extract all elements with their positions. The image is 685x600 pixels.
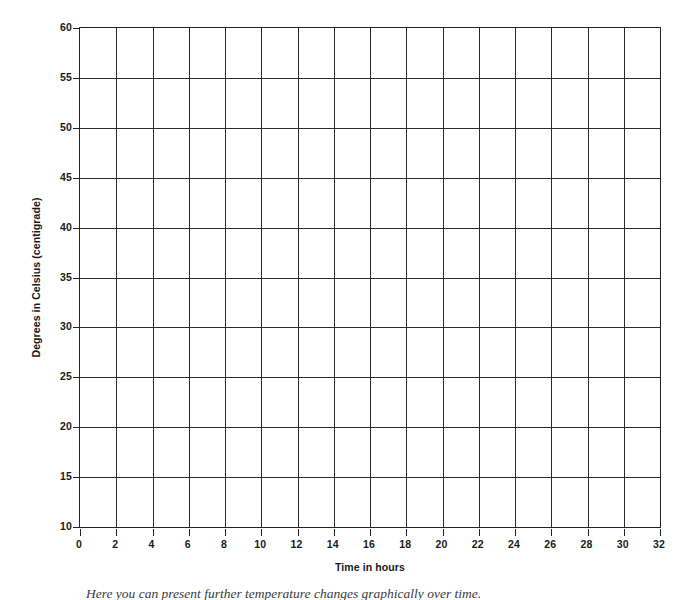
x-axis-tick-label: 6 xyxy=(173,538,203,550)
grid-line-vertical xyxy=(153,28,154,527)
y-axis-tick xyxy=(73,427,80,428)
x-axis-tick xyxy=(406,529,407,536)
y-axis-tick xyxy=(73,28,80,29)
x-axis-tick xyxy=(189,529,190,536)
grid-line-vertical xyxy=(225,28,226,527)
y-axis-title: Degrees in Celsius (centigrade) xyxy=(30,27,50,528)
x-axis-tick-label: 28 xyxy=(572,538,602,550)
y-axis-tick xyxy=(73,78,80,79)
y-axis-tick xyxy=(73,178,80,179)
grid-line-vertical xyxy=(370,28,371,527)
plot-area xyxy=(79,27,661,528)
grid-line-vertical xyxy=(624,28,625,527)
x-axis-tick-label: 8 xyxy=(209,538,239,550)
y-axis-tick xyxy=(73,327,80,328)
grid-line-vertical xyxy=(116,28,117,527)
figure-caption: Here you can present further temperature… xyxy=(86,586,646,600)
x-axis-tick-label: 26 xyxy=(535,538,565,550)
x-axis-tick xyxy=(261,529,262,536)
grid-line-vertical xyxy=(406,28,407,527)
x-axis-tick xyxy=(443,529,444,536)
x-axis-tick-label: 24 xyxy=(499,538,529,550)
x-axis-tick xyxy=(153,529,154,536)
grid-line-vertical xyxy=(189,28,190,527)
x-axis-tick-labels: 02468101214161820222426283032 xyxy=(79,538,661,554)
x-axis-tick xyxy=(588,529,589,536)
grid-line-vertical xyxy=(588,28,589,527)
x-axis-tick xyxy=(225,529,226,536)
grid-line-vertical xyxy=(479,28,480,527)
x-axis-tick-label: 0 xyxy=(64,538,94,550)
x-axis-tick-label: 10 xyxy=(245,538,275,550)
grid-line-vertical xyxy=(515,28,516,527)
x-axis-title: Time in hours xyxy=(79,561,661,573)
graph-figure: 1015202530354045505560 02468101214161820… xyxy=(0,0,685,600)
y-axis-tick xyxy=(73,527,80,528)
x-axis-tick xyxy=(624,529,625,536)
x-axis-tick xyxy=(80,529,81,536)
grid-line-vertical xyxy=(298,28,299,527)
y-axis-tick xyxy=(73,278,80,279)
x-axis-tick xyxy=(370,529,371,536)
x-axis-tick-label: 30 xyxy=(608,538,638,550)
x-axis-tick xyxy=(551,529,552,536)
x-axis-tick-label: 32 xyxy=(644,538,674,550)
x-axis-tick-label: 22 xyxy=(463,538,493,550)
x-axis-tick-label: 16 xyxy=(354,538,384,550)
x-axis-tick xyxy=(479,529,480,536)
x-axis-tick xyxy=(116,529,117,536)
x-axis-tick-label: 12 xyxy=(282,538,312,550)
x-axis-tick-label: 18 xyxy=(390,538,420,550)
y-axis-tick xyxy=(73,477,80,478)
x-axis-tick xyxy=(298,529,299,536)
x-axis-tick xyxy=(334,529,335,536)
x-axis-tick-label: 2 xyxy=(100,538,130,550)
x-axis-tick-label: 14 xyxy=(318,538,348,550)
y-axis-tick xyxy=(73,377,80,378)
grid-line-vertical xyxy=(261,28,262,527)
x-axis-tick-label: 20 xyxy=(427,538,457,550)
grid-line-vertical xyxy=(334,28,335,527)
x-axis-tick xyxy=(515,529,516,536)
grid-line-vertical xyxy=(551,28,552,527)
y-axis-tick xyxy=(73,228,80,229)
x-axis-tick-label: 4 xyxy=(137,538,167,550)
y-axis-tick xyxy=(73,128,80,129)
x-axis-tick xyxy=(660,529,661,536)
grid-line-vertical xyxy=(443,28,444,527)
